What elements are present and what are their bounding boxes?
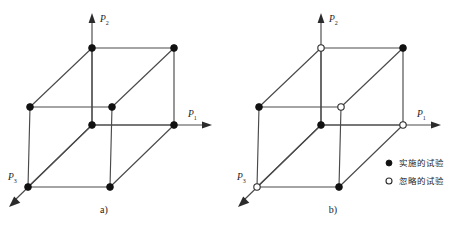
p1-axis-label: P1: [187, 109, 197, 121]
p2-axis-arrowhead: [89, 13, 96, 23]
vertex-bottom-back-right: [171, 122, 178, 129]
panel-a-cube-edges: [28, 48, 174, 187]
edge-bottom-right: [339, 125, 403, 187]
p3-axis-label: P3: [7, 172, 17, 184]
vertex-top-back-right: [400, 45, 407, 52]
vertex-top-back-right: [171, 45, 178, 52]
edge-bottom-right: [110, 125, 174, 187]
legend: 实施的试验 忽略的试验: [386, 158, 444, 186]
p3-axis-label: P3: [236, 172, 246, 184]
panel-a-caption: a): [100, 204, 108, 216]
vertex-top-back-left: [89, 45, 96, 52]
vertex-top-front-right: [109, 104, 116, 111]
edge-top-left: [30, 48, 92, 107]
vertex-bottom-front-right: [107, 184, 114, 191]
p1-axis-arrowhead: [431, 122, 441, 129]
edge-top-right: [341, 48, 403, 107]
edge-bottom-left: [28, 125, 92, 187]
edge-top-right: [112, 48, 174, 107]
vertex-bottom-front-left: [25, 184, 32, 191]
legend-open-marker-icon: [386, 178, 392, 184]
p1-axis-label: P1: [416, 109, 426, 121]
panel-b-caption: b): [329, 204, 337, 216]
edge-pillar-front-right: [110, 107, 112, 187]
edge-pillar-front-left: [28, 107, 30, 187]
panel-b-cube-edges: [257, 48, 403, 187]
edge-top-left: [259, 48, 321, 107]
p3-axis-arrowhead: [9, 197, 20, 207]
vertex-top-front-right: [338, 104, 344, 110]
vertex-bottom-front-right: [336, 184, 343, 191]
p1-axis-arrowhead: [202, 122, 212, 129]
vertex-top-front-left: [256, 104, 263, 111]
legend-filled-label: 实施的试验: [399, 158, 444, 168]
vertex-bottom-back-left: [89, 122, 96, 129]
p2-axis-arrowhead: [318, 13, 325, 23]
panel-a: P2 P1 P3 a): [0, 0, 229, 226]
vertex-bottom-front-left: [254, 184, 260, 190]
panel-b: P2 P1 P3 实施的试验 忽略的试验 b): [229, 0, 458, 226]
legend-filled-marker-icon: [386, 160, 392, 166]
vertex-top-front-left: [27, 104, 34, 111]
legend-open-label: 忽略的试验: [399, 176, 444, 186]
vertex-bottom-back-left: [318, 122, 325, 129]
edge-pillar-front-left: [257, 107, 259, 187]
p3-axis-arrowhead: [238, 197, 249, 207]
p2-axis-label: P2: [99, 14, 109, 26]
edge-bottom-left: [257, 125, 321, 187]
vertex-bottom-back-right: [400, 122, 406, 128]
p2-axis-label: P2: [328, 14, 338, 26]
vertex-top-back-left: [318, 45, 324, 51]
figure-root: P2 P1 P3 a): [0, 0, 458, 226]
edge-pillar-front-right: [339, 107, 341, 187]
